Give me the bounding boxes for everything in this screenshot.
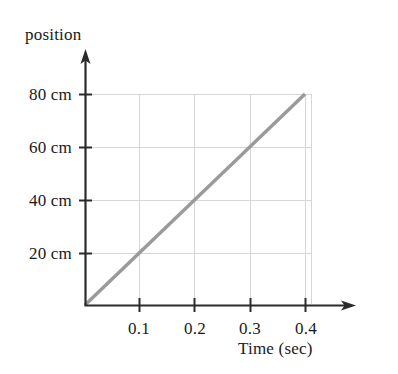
x-axis-title: Time (sec) xyxy=(238,340,313,357)
x-tick-label-0.2: 0.2 xyxy=(184,320,206,337)
y-tick-label-40: 40 cm xyxy=(14,192,72,209)
y-tick-label-20: 20 cm xyxy=(14,245,72,262)
x-tick-label-0.3: 0.3 xyxy=(239,320,261,337)
x-tick-label-0.1: 0.1 xyxy=(128,320,150,337)
chart-canvas xyxy=(0,0,398,374)
y-axis-title: position xyxy=(25,26,81,43)
y-tick-label-60: 60 cm xyxy=(14,139,72,156)
position-vs-time-chart: position Time (sec) 80 cm 60 cm 40 cm 20… xyxy=(0,0,398,374)
y-tick-label-80: 80 cm xyxy=(14,86,72,103)
x-tick-label-0.4: 0.4 xyxy=(295,320,317,337)
